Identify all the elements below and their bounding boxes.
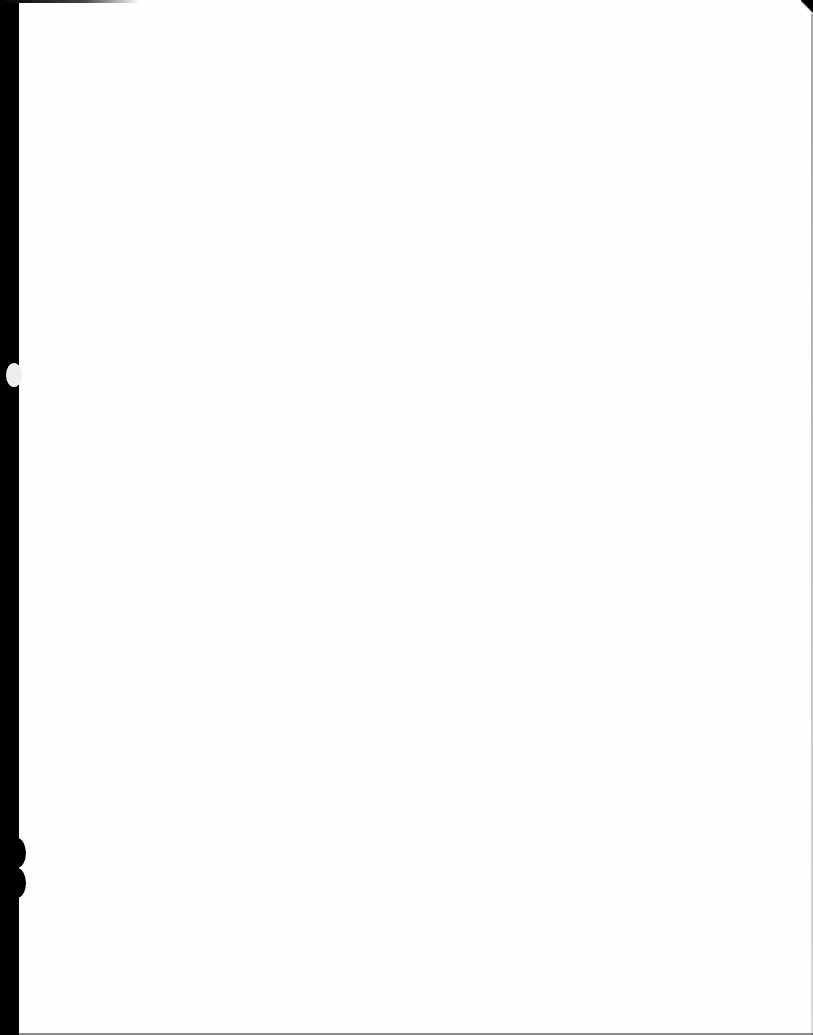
scan-edge-artifact <box>8 838 26 868</box>
torn-edge-notch <box>6 363 22 387</box>
scan-border-top <box>0 0 140 3</box>
blank-scanned-page <box>19 3 811 1033</box>
scan-edge-artifact <box>8 868 26 898</box>
scan-corner-shadow <box>801 0 813 14</box>
scan-border-left-lower <box>0 560 15 1035</box>
